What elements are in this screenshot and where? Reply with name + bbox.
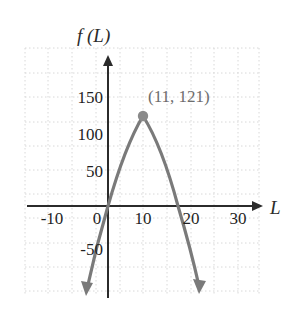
vertex-marker: [138, 111, 148, 121]
x-tick-label-30: 30: [230, 209, 247, 228]
y-tick-label-100: 100: [78, 125, 104, 144]
chart-figure: f (L) L (11, 121) 150 100 50 -50 -10 0 1…: [0, 0, 294, 319]
y-tick-label-150: 150: [78, 88, 104, 107]
x-axis-title: L: [269, 197, 281, 218]
y-tick-label-50: 50: [86, 162, 103, 181]
parabola-chart-svg: f (L) L (11, 121) 150 100 50 -50 -10 0 1…: [0, 0, 294, 319]
x-tick-label-10: 10: [135, 209, 152, 228]
vertex-annotation: (11, 121): [148, 87, 210, 106]
x-tick-label-0: 0: [93, 209, 102, 228]
y-axis-title: f (L): [77, 25, 110, 47]
x-tick-label-neg10: -10: [41, 209, 64, 228]
y-tick-label-neg50: -50: [80, 240, 103, 259]
x-tick-label-20: 20: [183, 209, 200, 228]
